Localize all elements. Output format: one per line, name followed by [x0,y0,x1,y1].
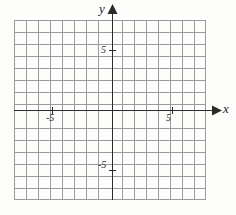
y-axis-tick-label-5: 5 [101,45,106,55]
y-axis-label: y [99,2,105,15]
y-axis-arrowhead [108,4,118,14]
grid-area [14,20,206,200]
coordinate-grid-figure: y x 5 -5 -5 5 [0,0,236,215]
x-axis-arrowhead [212,106,222,116]
x-axis-tick-label-negative-5: -5 [46,113,54,123]
x-axis-label: x [223,102,229,115]
y-axis-tick-label-negative-5: -5 [98,160,106,170]
grid-lines [14,20,206,200]
x-axis-tick-label-5: 5 [166,113,171,123]
